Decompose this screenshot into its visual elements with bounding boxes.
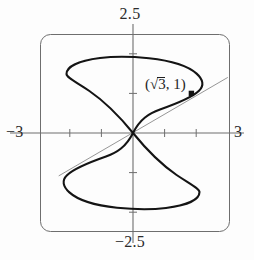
y-axis-min-label: −2.5 — [0, 234, 254, 250]
coord-y-value: 1 — [173, 76, 181, 92]
x-axis-min-label: −3 — [6, 124, 24, 140]
annotated-point-label: (√3, 1) — [145, 76, 186, 92]
radical-group: √3 — [150, 76, 166, 92]
radicand: 3 — [158, 76, 166, 92]
figure-canvas: 2.5 −2.5 −3 3 (√3, 1) — [0, 0, 254, 260]
plot-graphic — [0, 0, 254, 260]
y-axis-max-label: 2.5 — [0, 6, 254, 22]
secant-line — [59, 77, 228, 175]
paren-close: ) — [181, 76, 186, 92]
curve-lower-lobe — [64, 133, 200, 209]
annotated-point-marker — [189, 91, 194, 96]
radical-sign: √ — [150, 76, 158, 92]
radical-overbar — [157, 77, 165, 78]
x-axis-max-label: 3 — [234, 124, 242, 140]
curve-upper-lobe — [67, 57, 203, 133]
